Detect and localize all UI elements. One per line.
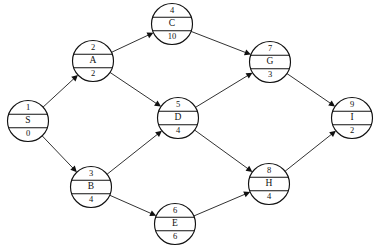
edge-g-to-i	[287, 74, 335, 107]
node-weight: 2	[350, 125, 354, 135]
node-s[interactable]: 1S0	[8, 101, 49, 142]
node-index: 1	[26, 102, 30, 112]
edge-b-to-e	[110, 195, 156, 216]
edge-c-to-g	[191, 31, 251, 55]
edge-a-to-c	[112, 33, 154, 53]
edge-d-to-g	[196, 73, 253, 108]
arrow-head-icon	[328, 100, 335, 106]
edge-line	[285, 134, 332, 172]
node-weight: 2	[91, 68, 95, 78]
diagram-canvas: 1S02A23B44C105D46E67G38H49I2	[0, 0, 380, 250]
edge-line	[43, 78, 75, 107]
node-label: C	[169, 18, 175, 28]
node-label: B	[88, 181, 94, 191]
arrow-head-icon	[246, 73, 253, 79]
node-label: A	[90, 55, 97, 65]
node-h[interactable]: 8H4	[249, 164, 290, 205]
edge-h-to-i	[285, 131, 336, 171]
arrow-head-icon	[329, 131, 336, 137]
node-label: I	[350, 112, 353, 122]
node-index: 7	[268, 43, 272, 53]
node-label: H	[266, 178, 273, 188]
edge-s-to-b	[42, 136, 77, 172]
edge-e-to-h	[194, 192, 250, 216]
node-index: 5	[176, 99, 180, 109]
edge-line	[112, 35, 150, 53]
node-a[interactable]: 2A2	[73, 41, 114, 82]
node-label: D	[175, 112, 182, 122]
arrow-head-icon	[246, 166, 253, 172]
node-weight: 10	[168, 31, 177, 41]
node-b[interactable]: 3B4	[71, 167, 112, 208]
node-i[interactable]: 9I2	[332, 98, 373, 139]
edge-line	[110, 72, 157, 104]
node-weight: 3	[268, 69, 272, 79]
node-e[interactable]: 6E6	[155, 204, 196, 245]
edge-line	[42, 136, 74, 169]
edge-line	[194, 194, 246, 216]
node-index: 8	[267, 165, 271, 175]
node-label: E	[172, 218, 178, 228]
node-index: 6	[173, 205, 177, 215]
nodes-layer: 1S02A23B44C105D46E67G38H49I2	[8, 4, 373, 245]
graph-svg: 1S02A23B44C105D46E67G38H49I2	[0, 0, 380, 250]
edge-line	[196, 75, 249, 107]
edge-line	[110, 195, 152, 214]
node-g[interactable]: 7G3	[250, 42, 291, 83]
edge-d-to-h	[195, 130, 253, 172]
node-c[interactable]: 4C10	[152, 4, 193, 45]
node-label: S	[25, 115, 30, 125]
node-weight: 0	[26, 128, 30, 138]
node-index: 9	[350, 99, 354, 109]
node-label: G	[267, 56, 274, 66]
edge-b-to-d	[107, 131, 162, 175]
node-weight: 6	[173, 231, 177, 241]
edge-line	[195, 130, 249, 169]
edge-s-to-a	[43, 75, 78, 107]
node-index: 3	[89, 168, 93, 178]
arrow-head-icon	[155, 131, 162, 137]
edge-a-to-d	[110, 72, 161, 106]
edge-line	[107, 134, 158, 175]
edge-line	[287, 74, 331, 104]
node-d[interactable]: 5D4	[158, 98, 199, 139]
node-index: 2	[91, 42, 95, 52]
arrow-head-icon	[154, 101, 161, 107]
edge-line	[191, 31, 247, 53]
